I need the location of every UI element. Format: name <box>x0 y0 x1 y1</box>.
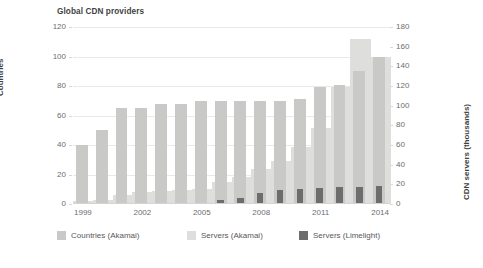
y-axis-right-tick-label: 160 <box>396 42 426 51</box>
chart-container: Global CDN providers Countries CDN serve… <box>0 0 483 268</box>
bar-countries-akamai <box>373 57 385 205</box>
legend-item[interactable]: Servers (Limelight) <box>299 231 380 240</box>
legend-swatch-icon <box>187 231 196 240</box>
bar-countries-akamai <box>215 101 227 204</box>
y-axis-right-tick-label: 60 <box>396 140 426 149</box>
chart-legend: Countries (Akamai)Servers (Akamai)Server… <box>57 231 437 251</box>
bar-servers-limelight <box>277 190 284 204</box>
gridline <box>73 27 390 28</box>
gridline <box>73 57 390 58</box>
x-axis-tick-label: 2002 <box>122 208 162 217</box>
y-axis-left-tick-label: 100 <box>40 52 66 61</box>
bar-countries-akamai <box>353 71 365 204</box>
bar-countries-akamai <box>135 108 147 204</box>
bar-countries-akamai <box>116 108 128 204</box>
legend-item[interactable]: Servers (Akamai) <box>187 231 263 240</box>
bar-countries-akamai <box>175 104 187 204</box>
bar-countries-akamai <box>96 130 108 204</box>
x-axis-tick-label: 1999 <box>63 208 103 217</box>
legend-label: Countries (Akamai) <box>71 231 139 240</box>
y-axis-right-tick-label: 80 <box>396 120 426 129</box>
bar-servers-limelight <box>316 188 323 204</box>
x-axis-tick-label: 2011 <box>301 208 341 217</box>
legend-item[interactable]: Countries (Akamai) <box>57 231 139 240</box>
y-axis-right-label: CDN servers (thousands) <box>462 104 471 200</box>
y-axis-right-tick-label: 0 <box>396 199 426 208</box>
y-axis-left-tick-mark <box>69 145 72 146</box>
bar-servers-limelight <box>297 189 304 204</box>
y-axis-left-tick-label: 0 <box>40 199 66 208</box>
x-axis-tick-label: 2014 <box>360 208 400 217</box>
y-axis-right-tick-mark <box>390 27 393 28</box>
x-axis-tick-label: 2005 <box>182 208 222 217</box>
y-axis-left-label: Countries <box>0 59 5 96</box>
bar-countries-akamai <box>234 101 246 204</box>
legend-swatch-icon <box>57 231 66 240</box>
legend-label: Servers (Limelight) <box>313 231 380 240</box>
y-axis-left-tick-label: 120 <box>40 22 66 31</box>
y-axis-left-tick-mark <box>69 86 72 87</box>
y-axis-left-tick-mark <box>69 204 72 205</box>
bar-countries-akamai <box>274 101 286 204</box>
y-axis-right-tick-label: 180 <box>396 22 426 31</box>
bar-countries-akamai <box>334 85 346 204</box>
y-axis-right-tick-mark <box>390 47 393 48</box>
y-axis-left-tick-label: 80 <box>40 81 66 90</box>
bar-countries-akamai <box>254 101 266 204</box>
y-axis-left-tick-mark <box>69 27 72 28</box>
y-axis-right-tick-mark <box>390 204 393 205</box>
plot-area <box>73 27 390 204</box>
bar-servers-limelight <box>376 186 383 204</box>
chart-title: Global CDN providers <box>57 7 144 16</box>
y-axis-left-tick-mark <box>69 116 72 117</box>
y-axis-left-tick-label: 40 <box>40 140 66 149</box>
bar-servers-limelight <box>336 187 343 204</box>
y-axis-right-tick-label: 140 <box>396 61 426 70</box>
bar-countries-akamai <box>76 145 88 204</box>
y-axis-left-tick-mark <box>69 175 72 176</box>
y-axis-left-tick-label: 20 <box>40 170 66 179</box>
axis-baseline <box>73 203 390 204</box>
y-axis-left-tick-mark <box>69 57 72 58</box>
bar-countries-akamai <box>155 104 167 204</box>
legend-swatch-icon <box>299 231 308 240</box>
y-axis-right-tick-label: 20 <box>396 179 426 188</box>
legend-label: Servers (Akamai) <box>201 231 263 240</box>
y-axis-left-tick-label: 60 <box>40 111 66 120</box>
y-axis-right-tick-label: 120 <box>396 81 426 90</box>
bar-countries-akamai <box>195 101 207 204</box>
bar-countries-akamai <box>314 87 326 204</box>
y-axis-right-tick-label: 100 <box>396 101 426 110</box>
y-axis-right-tick-label: 40 <box>396 160 426 169</box>
x-axis-tick-label: 2008 <box>241 208 281 217</box>
bar-servers-limelight <box>356 187 363 204</box>
